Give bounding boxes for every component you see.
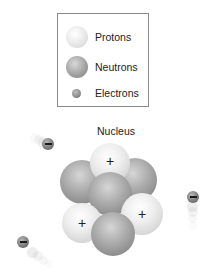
electron-icon [187,191,199,203]
electron-swatch-icon [72,89,81,98]
legend-item-protons: Protons [58,26,148,50]
neutron-swatch-icon [66,56,88,78]
legend-item-electrons: Electrons [58,84,148,108]
legend-box: Protons Neutrons Electrons [57,13,149,107]
neutron-sphere [91,212,135,256]
plus-sign: + [138,207,146,221]
electron-icon [17,236,29,248]
proton-swatch-icon [66,26,88,48]
plus-sign: + [78,216,86,230]
minus-sign [20,241,27,243]
minus-sign [45,143,52,145]
minus-sign [190,196,197,198]
legend-label: Protons [95,31,131,43]
legend-item-neutrons: Neutrons [58,56,148,80]
plus-sign: + [106,154,114,168]
electron-icon [42,138,54,150]
legend-label: Electrons [95,87,139,99]
legend-label: Neutrons [95,61,138,73]
